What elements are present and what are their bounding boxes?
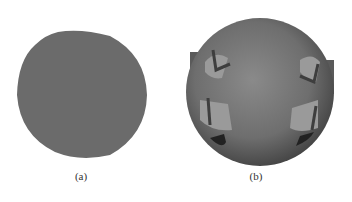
figure: (a) (b) [0,0,352,202]
sphere-shape [186,18,334,166]
disc-shape [17,31,147,158]
figure-graphics [0,0,352,202]
panel-a-label: (a) [75,170,87,182]
panel-b-label: (b) [250,170,263,182]
